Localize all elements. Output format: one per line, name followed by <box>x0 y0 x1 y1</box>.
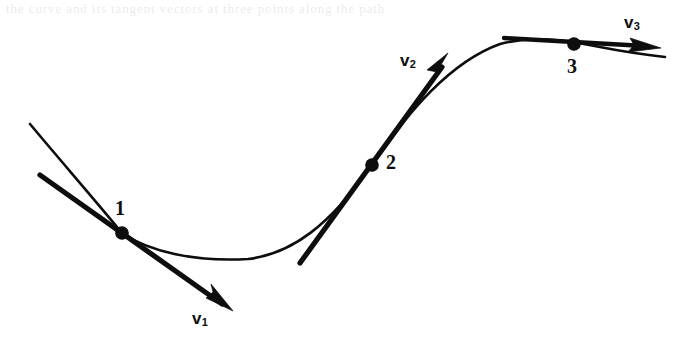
arrow-head-v1 <box>206 284 233 311</box>
point-label-1: 1 <box>115 198 125 218</box>
curve-diagram-svg <box>0 0 680 348</box>
figure-canvas: the curve and its tangent vectors at thr… <box>0 0 680 348</box>
vector-label-v2: v2 <box>400 52 416 70</box>
vector-label-v2-base: v <box>400 51 409 70</box>
vector-label-v3-base: v <box>624 13 633 32</box>
point-dot-2 <box>366 159 378 171</box>
point-dot-3 <box>568 38 580 50</box>
point-label-3: 3 <box>567 56 577 76</box>
vector-label-v3-subscript: 3 <box>634 20 640 32</box>
vector-label-v1-base: v <box>192 309 201 328</box>
tangent-line-1 <box>40 175 222 304</box>
point-dot-1 <box>116 227 128 239</box>
point-label-2: 2 <box>386 152 396 172</box>
vector-label-v2-subscript: 2 <box>410 58 416 70</box>
vector-label-v1-subscript: 1 <box>202 316 208 328</box>
vector-label-v3: v3 <box>624 14 640 32</box>
vector-label-v1: v1 <box>192 310 208 328</box>
